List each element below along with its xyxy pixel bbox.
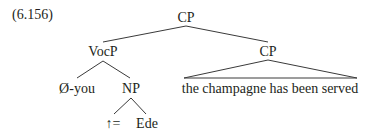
edge-cp-vocp [103,26,186,42]
example-number: (6.156) [12,7,53,23]
node-ede: Ede [136,116,158,131]
node-np: NP [122,81,140,96]
triangle-cp [184,60,357,78]
node-cp-yield: the champagne has been served [182,81,358,96]
edge-vocp-np [103,61,130,78]
node-up-arrow-equals: ↑= [106,116,121,131]
node-vocp: VocP [88,44,118,59]
node-root-cp: CP [177,10,194,25]
syntax-tree: (6.156) CP VocP CP the champagne has bee… [0,0,368,136]
edge-vocp-you [77,61,103,78]
edge-cp-cp [186,26,268,42]
node-cp: CP [259,44,276,59]
node-null-you: Ø-you [59,81,95,96]
edge-np-ede [131,98,146,114]
edge-np-annotation [114,98,131,114]
